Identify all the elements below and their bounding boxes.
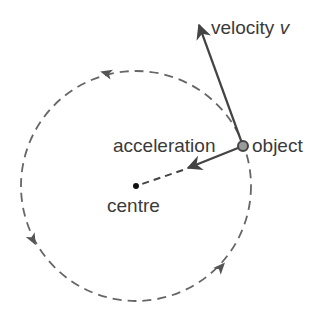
radius-dashed-line [139, 170, 183, 185]
circular-motion-diagram: velocity v acceleration object centre [0, 0, 333, 324]
centre-dot [133, 183, 139, 189]
acceleration-label: acceleration [113, 136, 215, 155]
velocity-text: velocity [211, 17, 274, 38]
object-label: object [252, 136, 303, 155]
centre-label: centre [107, 196, 160, 215]
direction-arrow-left-icon [26, 232, 40, 247]
velocity-symbol: v [280, 17, 290, 38]
velocity-arrow [199, 25, 243, 146]
velocity-label: velocity v [211, 18, 289, 37]
diagram-canvas [0, 0, 333, 324]
object-marker [238, 141, 248, 151]
direction-arrow-bottom-right-icon [213, 259, 228, 275]
